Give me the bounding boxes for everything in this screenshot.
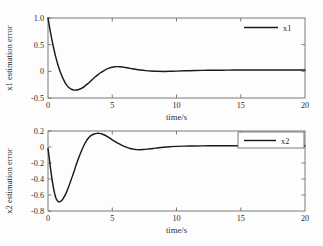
y-tick-label: -0.6	[31, 191, 44, 200]
figure-container: x1 estimation error 1.0 0.5 0 -0.5 0 5 1…	[0, 0, 323, 246]
y-tick-label: -0.5	[31, 94, 44, 103]
x-tick-label: 5	[110, 214, 114, 223]
x-tick-label: 20	[301, 214, 309, 223]
y-tick-label: 0.5	[34, 41, 44, 50]
y-tick-label: 0	[40, 67, 44, 76]
y-tick-label: -0.8	[31, 207, 44, 216]
chart-panel-x1: x1 estimation error 1.0 0.5 0 -0.5 0 5 1…	[0, 0, 323, 123]
x-tick-label: 15	[237, 214, 245, 223]
y-axis-title-x2: x2 estimation error	[4, 148, 14, 214]
y-tick-label: -0.2	[31, 159, 44, 168]
y-tick-label: 1.0	[34, 14, 44, 23]
x-tick-label: 15	[237, 101, 245, 110]
legend-x2: x2	[238, 132, 304, 148]
x-tick-label: 0	[46, 101, 50, 110]
plot-frame-x1	[48, 18, 305, 98]
chart-panel-x2: x2 estimation error 0.2 0 -0.2 -0.4 -0.6…	[0, 123, 323, 246]
legend-label-x2: x2	[281, 137, 289, 146]
y-tick-label: -0.4	[31, 175, 44, 184]
legend-x1: x1	[244, 24, 291, 33]
x-tick-label: 20	[301, 101, 309, 110]
x-tick-label: 0	[46, 214, 50, 223]
chart-svg-x1: x1 estimation error 1.0 0.5 0 -0.5 0 5 1…	[0, 0, 323, 123]
y-tick-label: 0	[40, 143, 44, 152]
legend-label-x1: x1	[283, 24, 291, 33]
x-axis-title-x2: time/s	[166, 225, 188, 235]
x-tick-label: 5	[110, 101, 114, 110]
data-curve-x1	[48, 18, 305, 90]
chart-svg-x2: x2 estimation error 0.2 0 -0.2 -0.4 -0.6…	[0, 123, 323, 246]
y-axis-title-x1: x1 estimation error	[4, 25, 14, 91]
y-tick-label: 0.2	[34, 127, 44, 136]
x-tick-label: 10	[172, 101, 180, 110]
x-tick-label: 10	[172, 214, 180, 223]
x-axis-title-x1: time/s	[166, 112, 188, 122]
